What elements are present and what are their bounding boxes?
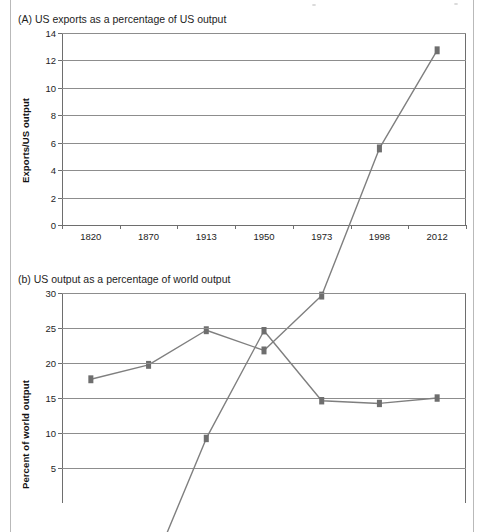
chart-b-plot-wrap: 51015202530 xyxy=(62,293,466,503)
series-marker xyxy=(436,48,439,53)
x-tick-label: 1973 xyxy=(311,231,332,242)
x-tick-mark xyxy=(408,225,409,229)
chart-b-y-axis-title: Percent of world output xyxy=(20,475,31,489)
figure-a-caption: (A) US exports as a percentage of US out… xyxy=(18,12,470,26)
x-tick-label: 1998 xyxy=(369,231,390,242)
series-marker xyxy=(436,396,439,401)
x-tick-label: 1820 xyxy=(80,231,101,242)
figure-b: (b) US output as a percentage of world o… xyxy=(18,272,470,532)
series-marker xyxy=(205,436,208,441)
x-tick-mark xyxy=(120,225,121,229)
series-marker xyxy=(320,398,323,403)
scan-artifact xyxy=(312,4,316,6)
series-line xyxy=(91,331,437,532)
x-tick-mark xyxy=(235,225,236,229)
x-tick-mark xyxy=(293,225,294,229)
series-marker xyxy=(378,146,381,151)
chart-a-y-axis-title: Exports/US output xyxy=(20,169,31,183)
y-tick-label: 5 xyxy=(51,463,56,474)
y-tick-label: 10 xyxy=(45,427,56,438)
x-tick-label: 1870 xyxy=(138,231,159,242)
chart-b-series xyxy=(62,293,466,532)
y-tick-label: 20 xyxy=(45,357,56,368)
y-tick-label: 6 xyxy=(51,137,56,148)
y-tick-label: 25 xyxy=(45,322,56,333)
series-marker xyxy=(378,401,381,406)
figure-a: (A) US exports as a percentage of US out… xyxy=(18,12,470,255)
chart-a: Exports/US output 02468101214 1820187019… xyxy=(18,33,470,255)
y-tick-label: 12 xyxy=(45,55,56,66)
y-tick-label: 30 xyxy=(45,288,56,299)
series-marker xyxy=(263,328,266,333)
y-tick-label: 15 xyxy=(45,393,56,404)
x-tick-mark xyxy=(351,225,352,229)
x-tick-label: 1950 xyxy=(253,231,274,242)
scan-artifact xyxy=(454,3,458,5)
figure-b-caption: (b) US output as a percentage of world o… xyxy=(18,272,470,286)
chart-b: Percent of world output 51015202530 xyxy=(18,293,470,532)
x-tick-label: 1913 xyxy=(196,231,217,242)
page-border-left xyxy=(10,0,11,532)
chart-a-x-axis: 1820187019131950197319982012 xyxy=(62,225,466,245)
x-tick-mark xyxy=(62,225,63,229)
y-tick-label: 10 xyxy=(45,82,56,93)
chart-a-plot-wrap: 02468101214 1820187019131950197319982012 xyxy=(62,33,466,225)
page-border-right xyxy=(473,0,474,532)
x-tick-label: 2012 xyxy=(427,231,448,242)
x-tick-mark xyxy=(466,225,467,229)
x-tick-mark xyxy=(177,225,178,229)
y-tick-label: 14 xyxy=(45,28,56,39)
y-tick-label: 2 xyxy=(51,192,56,203)
y-tick-label: 0 xyxy=(51,220,56,231)
y-tick-label: 8 xyxy=(51,110,56,121)
y-tick-label: 4 xyxy=(51,165,56,176)
